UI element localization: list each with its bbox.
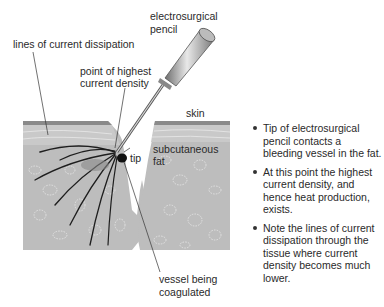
label-highest-density-2: current density [80, 77, 150, 89]
label-highest-density: point of highest [80, 65, 151, 77]
label-fat-2: fat [153, 155, 165, 167]
label-pencil-2: pencil [150, 23, 177, 35]
coagulated-area [81, 159, 109, 171]
label-pencil: electrosurgical [150, 10, 218, 22]
tissue-right [138, 121, 230, 250]
bullet-icon [253, 126, 257, 130]
vessel [117, 154, 127, 163]
bullet-icon [253, 226, 257, 230]
note-item: At this point the highest current densit… [253, 166, 383, 216]
note-item: Note the lines of current dissipation th… [253, 222, 383, 285]
label-vessel: vessel being [159, 273, 218, 285]
notes-list: Tip of electrosurgical pencil contacts a… [253, 122, 383, 290]
label-vessel-2: coagulated [159, 286, 211, 298]
bullet-icon [253, 170, 257, 174]
label-dissipation: lines of current dissipation [13, 38, 135, 50]
label-skin: skin [186, 107, 205, 119]
label-fat: subcutaneous [153, 143, 218, 155]
note-item: Tip of electrosurgical pencil contacts a… [253, 122, 383, 160]
label-tip: tip [130, 152, 141, 164]
